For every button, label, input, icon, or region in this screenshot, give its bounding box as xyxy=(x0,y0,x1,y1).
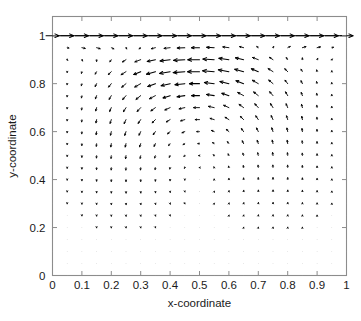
figure-container: 00.10.20.30.40.50.60.70.80.91 00.20.40.6… xyxy=(0,0,361,321)
y-axis-title: y-coordinate xyxy=(6,114,18,177)
x-tick-label: 0.9 xyxy=(309,279,325,291)
y-axis-tick-labels: 00.20.40.60.81 xyxy=(30,30,47,282)
y-tick-label: 0.8 xyxy=(30,78,46,90)
y-tick-label: 1 xyxy=(39,30,45,42)
quiver-plot: 00.10.20.30.40.50.60.70.80.91 00.20.40.6… xyxy=(0,0,361,321)
x-tick-label: 0.6 xyxy=(221,279,237,291)
x-tick-label: 0.4 xyxy=(162,279,179,291)
x-tick-label: 1 xyxy=(343,279,349,291)
x-axis-tick-labels: 00.10.20.30.40.50.60.70.80.91 xyxy=(49,279,349,291)
y-tick-label: 0.2 xyxy=(30,222,46,234)
x-tick-label: 0.7 xyxy=(250,279,266,291)
y-tick-label: 0.6 xyxy=(30,126,46,138)
x-tick-label: 0.5 xyxy=(192,279,208,291)
x-tick-label: 0.8 xyxy=(280,279,296,291)
x-tick-label: 0.3 xyxy=(133,279,149,291)
y-tick-label: 0.4 xyxy=(30,174,47,186)
x-tick-label: 0.1 xyxy=(74,279,90,291)
x-tick-label: 0 xyxy=(49,279,55,291)
velocity-vectors xyxy=(46,34,353,276)
y-tick-label: 0 xyxy=(39,270,45,282)
x-axis-title: x-coordinate xyxy=(168,297,231,309)
x-tick-label: 0.2 xyxy=(103,279,119,291)
